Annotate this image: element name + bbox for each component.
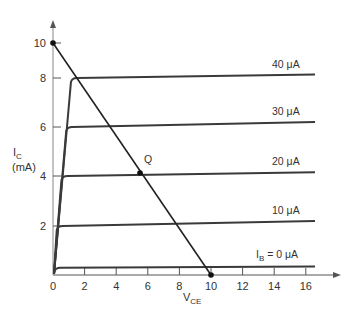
x-axis-arrow-icon <box>333 272 341 278</box>
y-axis-arrow-icon <box>50 20 56 28</box>
x-axis-label: VCE <box>183 291 201 306</box>
curve-label: 20 μA <box>272 155 300 167</box>
x-tick-label: 8 <box>176 280 182 292</box>
q-point <box>137 170 143 176</box>
load-line-endpoint <box>208 272 214 278</box>
q-point-label: Q <box>144 153 152 165</box>
x-tick-label: 2 <box>82 280 88 292</box>
y-tick-label: 4 <box>40 170 46 182</box>
x-tick-label: 4 <box>113 280 119 292</box>
collector-curve <box>54 266 315 274</box>
y-tick-label: 8 <box>40 72 46 84</box>
y-axis-unit: (mA) <box>12 161 36 173</box>
y-tick-label: 2 <box>40 220 46 232</box>
load-line-endpoint <box>50 40 56 46</box>
y-axis-label: IC <box>13 146 22 161</box>
x-tick-label: 6 <box>145 280 151 292</box>
curve-label: 30 μA <box>272 105 300 117</box>
x-tick-label: 14 <box>268 280 280 292</box>
y-tick-label: 10 <box>34 37 46 49</box>
x-tick-label: 16 <box>300 280 312 292</box>
y-tick-label: 6 <box>40 121 46 133</box>
x-tick-label: 0 <box>50 280 56 292</box>
curve-label: 40 μA <box>272 58 300 70</box>
curve-label: IB = 0 μA <box>256 248 298 263</box>
curve-label: 10 μA <box>272 204 300 216</box>
x-tick-label: 12 <box>236 280 248 292</box>
collector-curves: IB = 0 μA10 μA20 μA30 μA40 μA <box>54 58 315 275</box>
x-tick-label: 10 <box>205 280 217 292</box>
transistor-characteristic-chart: 0246810121416246810 IB = 0 μA10 μA20 μA3… <box>0 0 349 316</box>
